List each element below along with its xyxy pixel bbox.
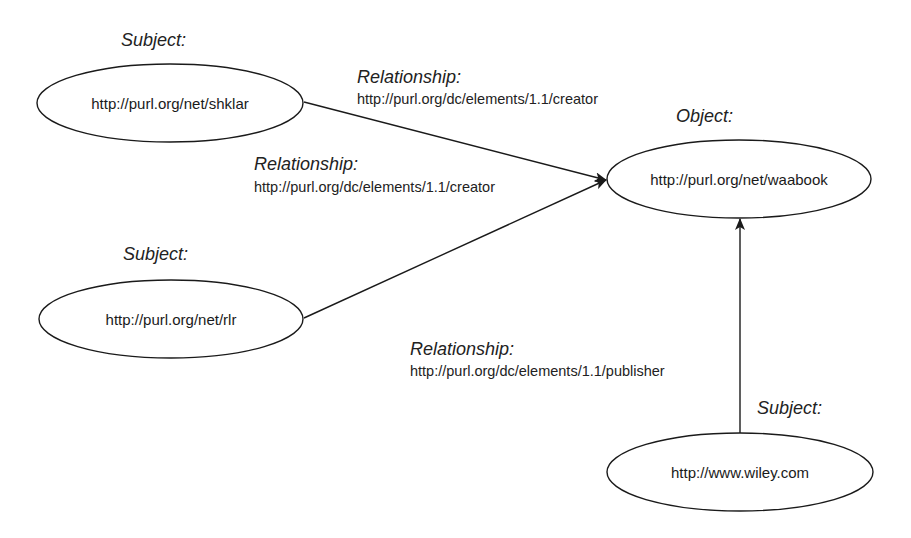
node-waabook-role: Object: [676, 106, 733, 127]
edge-shklar-role: Relationship: [357, 67, 461, 88]
node-rlr-uri: http://purl.org/net/rlr [106, 311, 237, 328]
edge-rlr-role: Relationship: [254, 154, 358, 175]
node-wiley-role: Subject: [757, 398, 822, 419]
edge-rlr-waabook [304, 180, 606, 318]
node-shklar-uri: http://purl.org/net/shklar [91, 95, 249, 112]
node-wiley-uri: http://www.wiley.com [671, 464, 809, 481]
edge-wiley-uri: http://purl.org/dc/elements/1.1/publishe… [410, 363, 665, 379]
node-shklar-role: Subject: [121, 30, 186, 51]
edge-rlr-uri: http://purl.org/dc/elements/1.1/creator [254, 179, 495, 195]
edge-shklar-uri: http://purl.org/dc/elements/1.1/creator [357, 91, 598, 107]
edge-wiley-role: Relationship: [410, 339, 514, 360]
node-rlr-role: Subject: [123, 244, 188, 265]
node-waabook-uri: http://purl.org/net/waabook [650, 171, 828, 188]
